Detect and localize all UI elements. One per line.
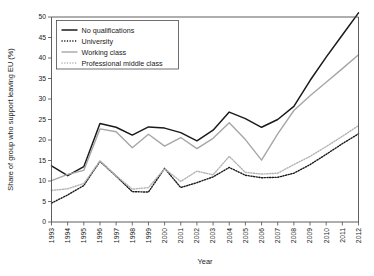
legend-label-2: Working class: [82, 48, 127, 57]
x-tick-label: 1997: [113, 228, 120, 243]
y-axis-ticks: 05101520253035404550: [38, 13, 51, 225]
x-tick-label: 1995: [80, 228, 87, 243]
x-tick-label: 2008: [290, 228, 297, 243]
x-tick-label: 2003: [209, 228, 216, 243]
x-tick-label: 2001: [177, 228, 184, 243]
y-tick-label: 10: [38, 177, 46, 184]
chart-container: 05101520253035404550 1993199419951996199…: [0, 0, 374, 276]
legend-label-1: University: [82, 37, 114, 46]
x-tick-label: 2009: [306, 228, 313, 243]
y-tick-label: 0: [42, 218, 46, 225]
legend-label-3: Professional middle class: [82, 59, 164, 68]
x-axis-ticks: 1993199419951996199719981999200020012002…: [48, 222, 362, 243]
line-chart: 05101520253035404550 1993199419951996199…: [0, 0, 374, 276]
x-tick-label: 1993: [48, 228, 55, 243]
y-tick-label: 25: [38, 116, 46, 123]
series-line-2: [52, 55, 359, 181]
y-tick-label: 40: [38, 54, 46, 61]
chart-legend: No qualificationsUniversityWorking class…: [57, 21, 179, 70]
y-tick-label: 15: [38, 157, 46, 164]
x-tick-label: 2007: [274, 228, 281, 243]
x-tick-label: 1994: [64, 228, 71, 243]
x-tick-label: 1998: [129, 228, 136, 243]
x-tick-label: 2011: [339, 228, 346, 243]
x-tick-label: 1996: [96, 228, 103, 243]
x-tick-label: 2004: [226, 228, 233, 243]
x-tick-label: 2000: [161, 228, 168, 243]
y-tick-label: 50: [38, 13, 46, 20]
x-tick-label: 2006: [258, 228, 265, 243]
y-tick-label: 45: [38, 34, 46, 41]
y-tick-label: 30: [38, 95, 46, 102]
y-axis-title: Share of group who support leaving EU (%…: [6, 48, 15, 191]
y-tick-label: 5: [42, 198, 46, 205]
x-tick-label: 1999: [145, 228, 152, 243]
legend-label-0: No qualifications: [82, 26, 135, 35]
y-tick-label: 20: [38, 136, 46, 143]
x-tick-label: 2005: [242, 228, 249, 243]
x-tick-label: 2002: [193, 228, 200, 243]
x-tick-label: 2012: [355, 228, 362, 243]
x-tick-label: 2010: [323, 228, 330, 243]
x-axis-title: Year: [198, 257, 213, 266]
y-tick-label: 35: [38, 75, 46, 82]
